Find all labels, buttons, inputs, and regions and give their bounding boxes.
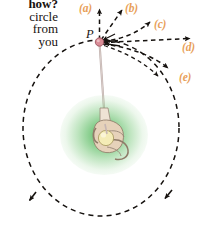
vector-label-c: (c)	[154, 18, 166, 30]
vector-label-a: (a)	[79, 2, 92, 14]
ball-highlight	[101, 132, 106, 137]
pivot-point-label: P	[86, 27, 94, 42]
physics-figure: how? circle from you P (a) (b) (c) (d) (…	[0, 0, 198, 235]
vector-label-b: (b)	[125, 2, 138, 14]
vector-label-d: (d)	[182, 41, 195, 53]
caption-block: how? circle from you	[0, 0, 58, 48]
vector-label-e: (e)	[179, 71, 191, 83]
caption-line-4: you	[0, 36, 58, 49]
